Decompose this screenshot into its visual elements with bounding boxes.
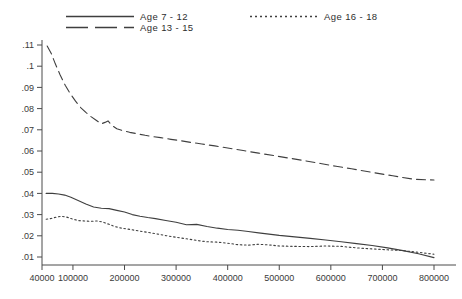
y-tick-label: .01 <box>21 252 34 262</box>
series-line-3 <box>46 216 434 254</box>
legend-label-1: Age 7 - 12 <box>140 11 188 22</box>
x-tick-label: 600000 <box>316 273 346 283</box>
x-tick-label: 700000 <box>367 273 397 283</box>
x-tick-label: 400000 <box>213 273 243 283</box>
x-tick-label: 300000 <box>161 273 191 283</box>
x-tick-label: 200000 <box>110 273 140 283</box>
y-tick-label: .06 <box>21 146 34 156</box>
y-tick-label: .04 <box>21 189 34 199</box>
legend-label-2: Age 13 - 15 <box>140 22 194 33</box>
y-tick-label: .02 <box>21 231 34 241</box>
line-chart: Age 7 - 12Age 13 - 15Age 16 - 18 .01.02.… <box>0 0 462 299</box>
y-tick-label: .11 <box>22 40 34 50</box>
y-tick-label: .09 <box>21 83 34 93</box>
x-tick-label: 800000 <box>419 273 449 283</box>
x-tick-label: 500000 <box>264 273 294 283</box>
y-tick-label: .1 <box>26 61 34 71</box>
chart-axes: .01.02.03.04.05.06.07.08.09.1.1140000100… <box>21 40 456 283</box>
chart-series <box>46 46 434 258</box>
legend-label-3: Age 16 - 18 <box>324 11 378 22</box>
y-tick-label: .07 <box>21 125 34 135</box>
y-tick-label: .03 <box>21 210 34 220</box>
chart-legend: Age 7 - 12Age 13 - 15Age 16 - 18 <box>66 11 378 33</box>
series-line-1 <box>46 193 434 257</box>
x-tick-label: 40000 <box>29 273 54 283</box>
y-tick-label: .08 <box>21 104 34 114</box>
x-tick-label: 100000 <box>58 273 88 283</box>
chart-figure: Age 7 - 12Age 13 - 15Age 16 - 18 .01.02.… <box>0 0 462 299</box>
y-tick-label: .05 <box>21 167 34 177</box>
series-line-2 <box>47 46 434 180</box>
